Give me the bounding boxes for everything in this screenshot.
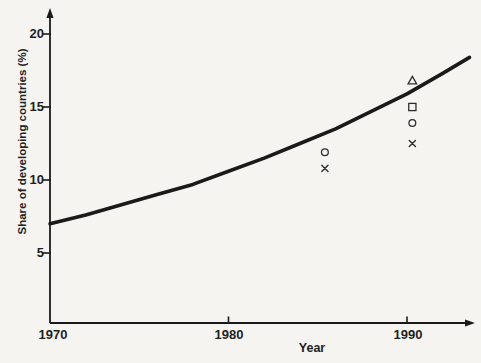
y-tick-label-20: 20 (14, 27, 44, 40)
x-marker-icon (322, 165, 328, 171)
triangle-marker-icon (408, 76, 417, 84)
x-tick-label-1990: 1990 (384, 328, 432, 341)
x-tick-label-1980: 1980 (205, 328, 253, 341)
plot-canvas (0, 0, 481, 363)
square-marker-icon (409, 103, 416, 110)
circle-marker-icon (409, 120, 416, 127)
x-tick-label-1970: 1970 (29, 328, 77, 341)
x-axis-arrowhead-icon (465, 319, 475, 326)
y-tick-label-5: 5 (14, 246, 44, 259)
y-axis-title: Share of developing countries (%) (15, 47, 30, 237)
y-tick-label-15: 15 (14, 100, 44, 113)
circle-marker-icon (321, 149, 328, 156)
y-axis-arrowhead-icon (46, 8, 53, 18)
x-axis-title: Year (282, 341, 342, 355)
x-marker-icon (409, 140, 415, 146)
trend-curve (50, 57, 470, 223)
y-tick-label-10: 10 (14, 173, 44, 186)
chart-figure: Share of developing countries (%) Year 2… (0, 0, 481, 363)
